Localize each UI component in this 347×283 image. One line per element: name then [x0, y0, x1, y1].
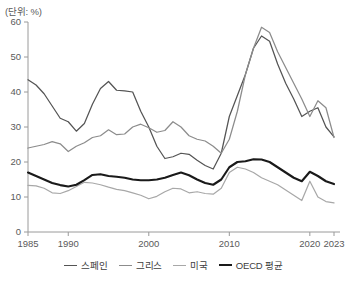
legend-item[interactable]: 미국 — [173, 258, 208, 272]
legend-item[interactable]: OECD 평균 — [219, 258, 283, 272]
x-axis: 198519902000201020202023 — [17, 232, 344, 249]
legend-line-swatch — [119, 265, 132, 266]
x-tick-label: 2000 — [138, 238, 159, 249]
legend-label: 미국 — [190, 258, 208, 272]
legend-label: 스페인 — [81, 258, 107, 272]
y-tick-label: 30 — [10, 121, 21, 132]
legend-label: 그리스 — [136, 258, 162, 272]
series-line — [28, 159, 334, 186]
y-tick-label: 0 — [16, 226, 21, 237]
legend-line-swatch — [219, 264, 232, 266]
legend-label: OECD 평균 — [236, 258, 283, 272]
y-tick-label: 40 — [10, 86, 21, 97]
line-chart-plot: 0102030405060 198519902000201020202023 — [0, 0, 347, 283]
x-tick-label: 1985 — [17, 238, 38, 249]
series-line — [28, 27, 334, 153]
y-tick-label: 10 — [10, 191, 21, 202]
series-line — [28, 36, 334, 169]
legend-item[interactable]: 스페인 — [64, 258, 107, 272]
legend-line-swatch — [173, 265, 186, 266]
legend-item[interactable]: 그리스 — [119, 258, 162, 272]
chart-legend: 스페인그리스미국OECD 평균 — [0, 258, 347, 272]
y-tick-label: 60 — [10, 16, 21, 27]
y-tick-label: 20 — [10, 156, 21, 167]
data-series-group — [28, 27, 334, 203]
x-tick-label: 2023 — [323, 238, 344, 249]
x-tick-label: 2010 — [219, 238, 240, 249]
x-tick-label: 2020 — [299, 238, 320, 249]
chart-container: (단위: %) 0102030405060 198519902000201020… — [0, 0, 347, 283]
x-tick-label: 1990 — [58, 238, 79, 249]
y-axis: 0102030405060 — [10, 16, 28, 237]
y-tick-label: 50 — [10, 51, 21, 62]
legend-line-swatch — [64, 265, 77, 266]
